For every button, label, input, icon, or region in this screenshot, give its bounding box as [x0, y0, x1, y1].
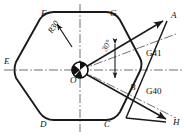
vertex-label-g: G [110, 9, 117, 18]
radius-leader [57, 24, 72, 47]
vertex-label-f: F [41, 9, 47, 18]
vertex-label-c: C [104, 120, 110, 129]
origin-label: O [70, 76, 77, 85]
path-o-to-h [84, 73, 166, 119]
diagram-canvas [0, 0, 186, 136]
vertex-label-e: E [4, 57, 10, 66]
gcode-label-g41: G41 [146, 48, 162, 58]
point-label-h: H [173, 118, 180, 127]
path-a-to-h-upper [126, 21, 167, 118]
technical-drawing-figure: E F G C D A B H O G41 G40 R30 30° [0, 0, 186, 136]
centerline-to-a [80, 34, 176, 70]
vertex-label-d: D [40, 120, 47, 129]
gcode-label-g40: G40 [146, 86, 162, 96]
point-label-a: A [171, 11, 177, 20]
point-label-b: B [130, 83, 136, 92]
path-b-to-h-lower [126, 118, 166, 122]
